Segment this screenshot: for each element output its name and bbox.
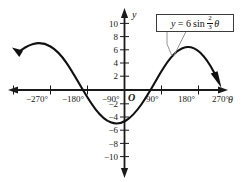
y-tick-label-neg8: −8 xyxy=(98,140,118,149)
y-tick-label-2: 2 xyxy=(100,72,118,81)
y-tick-label-neg10: −10 xyxy=(95,153,118,162)
equation-y: y xyxy=(171,18,175,29)
equation-fraction: 2 3 xyxy=(207,15,213,31)
y-tick-label-8: 8 xyxy=(100,33,118,42)
equation-callout: y = 6 sin 2 3 θ xyxy=(156,14,234,32)
y-tick-label-4: 4 xyxy=(100,59,118,68)
equation-amplitude: 6 xyxy=(186,18,191,29)
x-axis-label: θ xyxy=(228,95,233,105)
sine-graph-figure: y = 6 sin 2 3 θ 10 8 6 4 2 −2 −4 −6 −8 −… xyxy=(0,0,243,182)
y-tick-label-6: 6 xyxy=(100,46,118,55)
y-tick-label-neg4: −4 xyxy=(98,113,118,122)
equation-variable: θ xyxy=(214,18,219,29)
y-axis-label: y xyxy=(132,10,136,20)
origin-label: O xyxy=(128,93,135,103)
x-tick-label-neg90: −90° xyxy=(102,95,120,104)
equation-frac-numerator: 2 xyxy=(207,15,213,22)
x-tick-label-neg270: −270° xyxy=(26,95,48,104)
y-tick-label-neg6: −6 xyxy=(98,126,118,135)
x-tick-label-270: 270° xyxy=(212,95,229,104)
equation-text: y = 6 sin 2 3 θ xyxy=(171,15,219,31)
equation-equals: = xyxy=(178,18,184,29)
y-tick-label-10: 10 xyxy=(100,20,118,29)
equation-frac-denominator: 3 xyxy=(207,23,213,31)
x-tick-label-180: 180° xyxy=(178,95,195,104)
x-tick-label-90: 90° xyxy=(146,95,159,104)
equation-function: sin xyxy=(193,18,205,29)
x-axis xyxy=(8,86,228,93)
x-tick-label-neg180: −180° xyxy=(62,95,84,104)
